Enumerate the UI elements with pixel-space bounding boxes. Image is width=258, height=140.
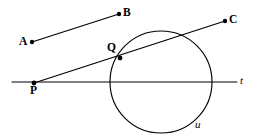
segment-pc [34,21,225,83]
segment-ab [32,14,119,42]
point-label-q: Q [107,42,116,54]
point-q-dot [118,56,123,61]
point-b-dot [117,12,121,16]
point-label-b: B [123,7,131,19]
geometry-figure: A B C Q P t u [0,0,258,140]
geometry-canvas [0,0,258,140]
point-a-dot [30,40,34,44]
point-label-a: A [19,36,27,48]
point-c-dot [223,19,227,23]
circle-label-u: u [195,119,201,130]
line-label-t: t [240,75,243,86]
point-label-c: C [229,14,237,26]
point-label-p: P [30,85,37,97]
